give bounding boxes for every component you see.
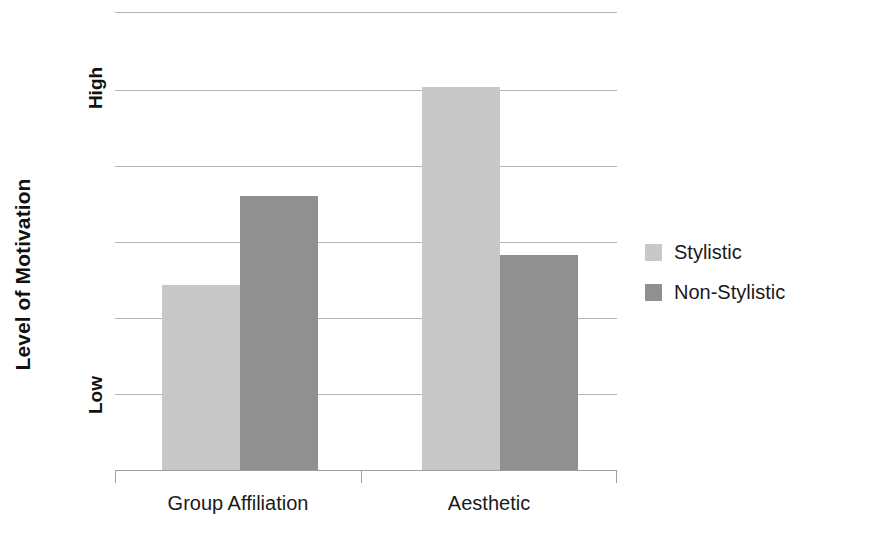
gridline-4 [115,166,617,167]
y-axis-title: Level of Motivation [0,0,46,549]
x-axis-tick-right [616,470,617,483]
gridline-3 [115,242,617,243]
y-axis-tick-label-high: High [81,28,111,148]
gridline-6 [115,12,617,13]
x-axis-tick-middle [361,470,362,483]
legend: Stylistic Non-Stylistic [645,232,785,312]
legend-label-stylistic: Stylistic [674,241,742,264]
bar-chart-figure: Level of Motivation High Low Group Affil… [0,0,879,549]
bar-aesthetic-stylistic [422,87,500,470]
x-axis-category-label-group-affiliation: Group Affiliation [115,492,361,515]
bar-group-affiliation-stylistic [162,285,240,470]
x-axis-line [115,470,617,471]
legend-label-non-stylistic: Non-Stylistic [674,281,785,304]
legend-swatch-icon-non-stylistic [645,284,662,301]
x-axis-tick-left [115,470,116,483]
plot-area [115,12,617,470]
bar-aesthetic-non-stylistic [500,255,578,470]
legend-entry-non-stylistic: Non-Stylistic [645,272,785,312]
legend-swatch-icon-stylistic [645,244,662,261]
y-axis-tick-label-low: Low [81,335,111,455]
gridline-5 [115,90,617,91]
x-axis-category-label-aesthetic: Aesthetic [361,492,617,515]
legend-entry-stylistic: Stylistic [645,232,785,272]
bar-group-affiliation-non-stylistic [240,196,318,470]
